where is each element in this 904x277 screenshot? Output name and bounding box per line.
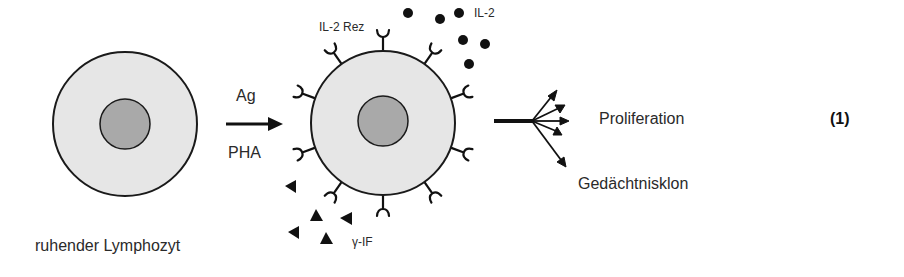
il2-dot-icon [454, 8, 464, 18]
il2-label: IL-2 [474, 7, 495, 19]
interferon-triangle-icon [320, 232, 333, 244]
il2-receptor-label: IL-2 Rez [319, 21, 364, 33]
il2-dot-icon [403, 8, 413, 18]
il2-receptor-icon [377, 195, 389, 216]
activated-lymphocyte [294, 30, 473, 216]
lymphocyte-activation-diagram [0, 0, 904, 277]
interferon-triangle-icon [340, 212, 352, 225]
il2-receptor-icon [424, 182, 441, 203]
il2-receptor-icon [451, 86, 473, 99]
il2-receptor-icon [424, 43, 441, 64]
activated-cell-nucleus [358, 96, 408, 146]
il2-dot-icon [435, 14, 445, 24]
il2-receptor-icon [377, 30, 389, 51]
il2-receptor-icon [294, 148, 316, 161]
memory-clone-label: Gedächtnisklon [578, 176, 688, 192]
interferon-label: γ-IF [352, 236, 373, 248]
interferon-triangle-icon [288, 226, 299, 239]
stimulus-antigen-label: Ag [236, 88, 256, 104]
proliferation-label: Proliferation [599, 111, 684, 127]
stimulus-pha-label: PHA [228, 145, 261, 161]
il2-receptor-icon [451, 148, 473, 161]
il2-receptor-icon [294, 86, 316, 99]
il2-dot-icon [458, 35, 468, 45]
interferon-triangle-icon [310, 209, 323, 221]
il2-receptor-icon [325, 43, 342, 64]
il2-dot-icon [480, 39, 490, 49]
resting-cell-nucleus [100, 99, 150, 149]
interferon-triangle-icon [285, 180, 296, 193]
il2-receptor-icon [325, 182, 342, 203]
outcome-arrows [494, 90, 569, 167]
resting-lymphocyte-label: ruhender Lymphozyt [35, 238, 180, 254]
interferon-molecules [285, 180, 352, 244]
il2-dot-icon [464, 59, 474, 69]
figure-number: (1) [830, 111, 850, 127]
resting-lymphocyte [53, 52, 197, 196]
stimulus-arrow [226, 117, 283, 131]
